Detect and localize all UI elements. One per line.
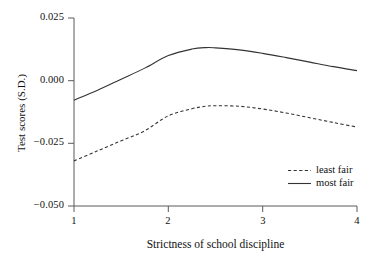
x-axis-title: Strictness of school discipline (74, 238, 357, 250)
x-tick-label-3: 4 (347, 215, 367, 226)
y-tick-marks (68, 18, 74, 206)
chart-figure: 0.025 0.000 −0.025 −0.050 1 2 3 4 Test s… (0, 0, 379, 264)
y-axis-title: Test scores (S.D.) (15, 43, 27, 183)
x-tick-marks (74, 206, 357, 212)
legend-label-most-fair: most fair (316, 177, 354, 188)
y-tick-label-0: 0.025 (18, 11, 64, 22)
x-tick-label-1: 2 (158, 215, 178, 226)
legend-label-least-fair: least fair (316, 164, 352, 175)
y-tick-label-3: −0.050 (18, 199, 64, 210)
series-line-least-fair (74, 106, 357, 161)
plot-area (0, 0, 379, 264)
x-tick-label-0: 1 (64, 215, 84, 226)
series-line-most-fair (74, 47, 357, 100)
x-tick-label-2: 3 (253, 215, 273, 226)
